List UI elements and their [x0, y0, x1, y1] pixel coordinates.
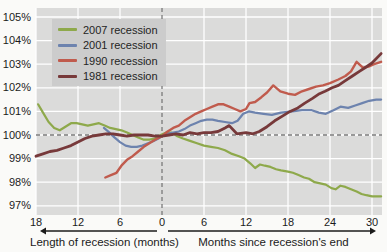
- y-axis-label: 99%: [0, 153, 31, 164]
- x-axis-label: 30: [360, 216, 384, 228]
- y-axis-label: 98%: [0, 177, 31, 188]
- legend-label: 1981 recession: [83, 70, 158, 82]
- right-axis-arrow-head: [370, 228, 376, 235]
- x-axis-label: 6: [192, 216, 216, 228]
- x-axis-caption-left: Length of recession (months): [30, 236, 165, 248]
- x-axis-label: 12: [66, 216, 90, 228]
- x-axis-label: 24: [318, 216, 342, 228]
- y-axis-label: 105%: [0, 12, 31, 23]
- legend: 2007 recession2001 recession1990 recessi…: [52, 19, 166, 86]
- legend-item: 2001 recession: [58, 38, 166, 54]
- legend-item: 2007 recession: [58, 22, 166, 38]
- legend-label: 2001 recession: [83, 39, 158, 51]
- x-axis-label: 18: [276, 216, 300, 228]
- x-axis-caption-right: Months since recession's end: [181, 236, 366, 248]
- legend-swatch-icon: [58, 75, 77, 78]
- y-axis-label: 97%: [0, 200, 31, 211]
- x-axis-label: 6: [108, 216, 132, 228]
- y-axis-label: 100%: [0, 130, 31, 141]
- legend-swatch-icon: [58, 59, 77, 62]
- legend-item: 1981 recession: [58, 69, 166, 85]
- left-axis-arrow-head: [40, 228, 46, 235]
- x-axis-label: 18: [24, 216, 48, 228]
- y-axis-label: 102%: [0, 82, 31, 93]
- legend-label: 2007 recession: [83, 24, 158, 36]
- recession-comparison-chart: 105%104%103%102%101%100%99%98%97% 181260…: [0, 0, 387, 252]
- legend-swatch-icon: [58, 44, 77, 47]
- legend-item: 1990 recession: [58, 53, 166, 69]
- y-axis-label: 103%: [0, 59, 31, 70]
- y-axis-label: 104%: [0, 35, 31, 46]
- legend-swatch-icon: [58, 28, 77, 31]
- legend-label: 1990 recession: [83, 55, 158, 67]
- x-axis-label: 0: [150, 216, 174, 228]
- y-axis-label: 101%: [0, 106, 31, 117]
- x-axis-label: 12: [234, 216, 258, 228]
